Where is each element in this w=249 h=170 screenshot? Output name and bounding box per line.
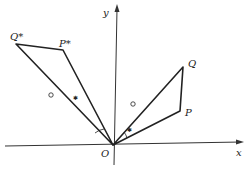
- label-Pstar: P*: [58, 38, 71, 49]
- x-axis-arrow-icon: [236, 140, 244, 145]
- label-O: O: [101, 148, 109, 159]
- cross-marker-OPstar: ✱: [73, 94, 78, 101]
- cross-marker-OP: ✱: [127, 126, 132, 133]
- circle-marker-OQstar: [49, 93, 53, 97]
- label-Qstar: Q*: [10, 31, 23, 42]
- triangle-OPstar-Qstar: [16, 44, 113, 145]
- rotation-diagram: ✱ ✱ y x O P Q P* Q*: [0, 0, 249, 170]
- triangle-OPQ: [113, 67, 183, 145]
- x-axis: [5, 142, 241, 146]
- label-Q: Q: [188, 58, 196, 69]
- y-axis-arrow-icon: [115, 4, 120, 12]
- label-x: x: [236, 147, 242, 158]
- label-y: y: [102, 7, 109, 18]
- circle-marker-OQ: [131, 102, 135, 106]
- label-P: P: [184, 107, 192, 118]
